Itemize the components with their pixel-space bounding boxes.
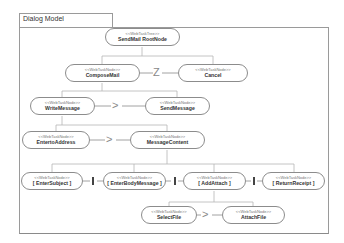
node-name: MessageContent <box>131 139 204 146</box>
node-name: SendMessage <box>146 105 209 112</box>
node-add-attach[interactable]: <<WebTaskNode>> [ AddAttach ] <box>183 172 246 190</box>
node-enter-to-address[interactable]: <<WebTaskNode>> EntertoAddress <box>22 131 90 149</box>
node-name: ComposeMail <box>66 72 139 79</box>
operator-deactivation: Z <box>153 67 160 78</box>
node-enter-body-message[interactable]: <<WebTaskNode>> [ EnterBodyMessage ] <box>103 172 166 190</box>
operator-enabling: > <box>106 134 112 145</box>
node-name: Cancel <box>179 72 247 79</box>
node-name: SelectFile <box>142 214 196 221</box>
node-message-content[interactable]: <<WebTaskNode>> MessageContent <box>130 131 205 149</box>
node-name: SendMail RootNode <box>106 36 179 43</box>
node-name: [ AddAttach ] <box>184 180 245 187</box>
node-send-message[interactable]: <<WebTaskNode>> SendMessage <box>145 97 210 115</box>
operator-concurrent <box>174 177 176 185</box>
node-name: [ ReturnReceipt ] <box>263 180 324 187</box>
operator-concurrent <box>253 177 255 185</box>
node-name: WriteMessage <box>31 105 94 112</box>
node-name: AttachFile <box>223 214 284 221</box>
dialog-model-diagram: Dialog Model <box>0 0 344 243</box>
node-enter-subject[interactable]: <<WebTaskNode>> [ EnterSubject ] <box>21 172 83 190</box>
node-attach-file[interactable]: <<WebTaskNode>> AttachFile <box>222 206 285 224</box>
node-return-receipt[interactable]: <<WebTaskNode>> [ ReturnReceipt ] <box>262 172 325 190</box>
operator-enabling: > <box>112 100 118 111</box>
node-select-file[interactable]: <<WebTaskNode>> SelectFile <box>141 206 197 224</box>
node-name: EntertoAddress <box>23 139 89 146</box>
node-compose-mail[interactable]: <<WebTaskNode>> ComposeMail <box>65 64 140 82</box>
operator-enabling: > <box>202 209 208 220</box>
operator-concurrent <box>92 177 94 185</box>
node-write-message[interactable]: <<WebTaskNode>> WriteMessage <box>30 97 95 115</box>
node-root[interactable]: <<WebTaskTree>> SendMail RootNode <box>105 28 180 46</box>
node-name: [ EnterSubject ] <box>22 180 82 187</box>
node-name: [ EnterBodyMessage ] <box>104 180 165 187</box>
node-cancel[interactable]: <<WebTaskNode>> Cancel <box>178 64 248 82</box>
